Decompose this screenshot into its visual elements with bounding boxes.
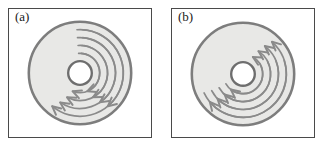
figure-container: (a) (b) bbox=[0, 0, 327, 147]
annulus-inner-circle bbox=[231, 62, 255, 86]
panel-b-diagram bbox=[172, 9, 314, 137]
panel-a-diagram bbox=[9, 9, 151, 137]
panel-a: (a) bbox=[8, 8, 152, 138]
annulus-inner-circle bbox=[68, 61, 92, 85]
panel-a-label: (a) bbox=[15, 10, 29, 23]
panel-b-label: (b) bbox=[178, 10, 193, 23]
panel-b: (b) bbox=[171, 8, 315, 138]
